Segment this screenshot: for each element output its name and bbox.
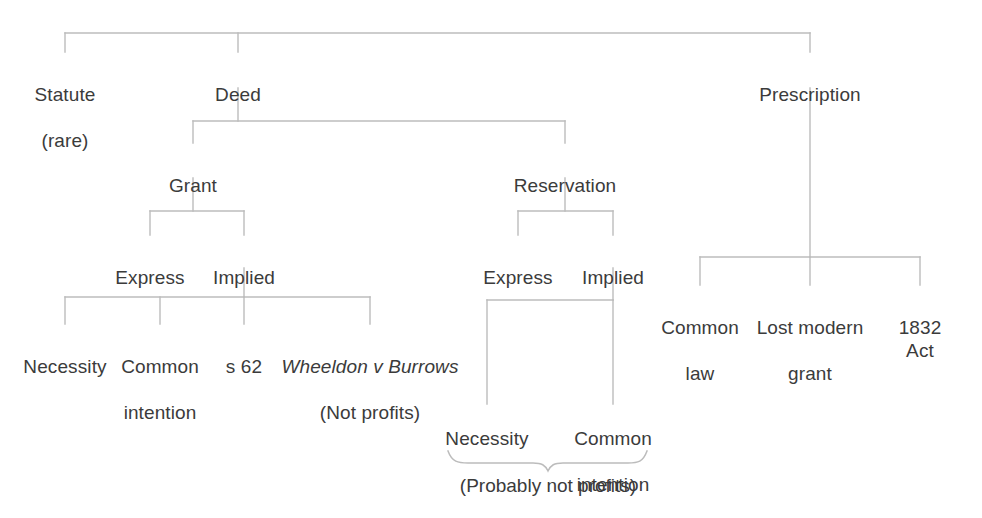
node-grant-common-intention: Common intention [121,332,199,447]
node-grant-necessity: Necessity [23,332,106,401]
node-prescription-1832-act-label: 1832 Act [889,316,951,362]
node-grant-necessity-label: Necessity [23,355,106,378]
node-deed-label: Deed [215,83,261,106]
node-grant-section-62-label: s 62 [226,355,262,378]
node-prescription-common-law: Common law [661,293,739,408]
node-reservation-implied-label: Implied [582,266,644,289]
node-statute: Statute (rare) [35,60,96,175]
node-grant-express-label: Express [115,266,184,289]
node-reservation: Reservation [514,151,616,220]
node-reservation-common-intention: Common intention [574,404,652,518]
node-grant-wheeldon-v-burrows: Wheeldon v Burrows (Not profits) [281,332,458,447]
node-prescription-lost-modern-grant: Lost modern grant [757,293,864,408]
node-grant-express: Express [115,243,184,312]
easement-acquisition-tree-diagram: Statute (rare) Deed Prescription Grant R… [0,0,982,518]
node-deed: Deed [215,60,261,129]
node-grant-label: Grant [169,174,217,197]
node-reservation-common-intention-label: Common [574,427,652,450]
node-grant-section-62: s 62 [226,332,262,401]
node-prescription-common-law-label: Common [661,316,739,339]
node-prescription-1832-act: 1832 Act [889,293,951,385]
node-reservation-implied: Implied [582,243,644,312]
node-statute-label: Statute [35,83,96,106]
node-statute-sublabel: (rare) [35,129,96,152]
node-grant-wheeldon-case-name: Wheeldon v Burrows [281,355,458,378]
node-grant-implied: Implied [213,243,275,312]
node-reservation-necessity: Necessity [445,404,528,473]
node-reservation-necessity-label: Necessity [445,427,528,450]
node-grant-implied-label: Implied [213,266,275,289]
node-grant-common-intention-label: Common [121,355,199,378]
node-reservation-express: Express [483,243,552,312]
node-reservation-express-label: Express [483,266,552,289]
node-prescription-label: Prescription [759,83,861,106]
node-grant-common-intention-sublabel: intention [121,401,199,424]
node-prescription-lost-modern-grant-label: Lost modern [757,316,864,339]
node-grant: Grant [169,151,217,220]
node-prescription: Prescription [759,60,861,129]
annotation-probably-not-profits: (Probably not profits) [460,474,636,497]
node-reservation-label: Reservation [514,174,616,197]
node-prescription-common-law-sublabel: law [661,362,739,385]
node-prescription-lost-modern-grant-sublabel: grant [757,362,864,385]
node-grant-wheeldon-sublabel: (Not profits) [281,401,458,424]
